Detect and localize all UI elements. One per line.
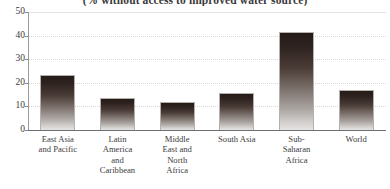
bar	[100, 98, 135, 130]
y-tick-label-40: 40	[1, 31, 25, 41]
x-axis-label: MiddleEast andNorthAfrica	[147, 134, 207, 176]
x-axis-label-line: and Pacific	[28, 144, 88, 154]
x-axis-label-line: Middle	[147, 134, 207, 144]
bar	[160, 102, 195, 130]
x-axis-label-line: East Asia	[28, 134, 88, 144]
x-axis-label-line: Africa	[267, 155, 327, 165]
y-tick-label-0: 0	[1, 125, 25, 135]
x-axis-label-line: World	[326, 134, 386, 144]
y-tick-label-10: 10	[1, 101, 25, 111]
y-tick-label-30: 30	[1, 54, 25, 64]
x-axis-label: South Asia	[207, 134, 267, 144]
x-axis-label: World	[326, 134, 386, 144]
y-tick-label-20: 20	[1, 78, 25, 88]
x-axis-label-line: and	[88, 155, 148, 165]
x-axis-label-line: America	[88, 144, 148, 154]
x-axis-label-line: North	[147, 155, 207, 165]
bar	[339, 90, 374, 130]
x-axis-line	[28, 130, 386, 131]
x-axis-label-line: South Asia	[207, 134, 267, 144]
y-tick-label-50: 50	[1, 7, 25, 17]
bars-layer	[28, 12, 386, 130]
bar-chart: (% without access to improved water sour…	[0, 0, 390, 189]
chart-title: (% without access to improved water sour…	[0, 0, 390, 6]
x-axis-label-line: East and	[147, 144, 207, 154]
bar	[40, 75, 75, 130]
x-axis-label-line: Africa	[147, 165, 207, 175]
x-axis-label-line: Saharan	[267, 144, 327, 154]
x-axis-category-labels: East Asiaand PacificLatinAmericaandCarib…	[28, 134, 386, 189]
bar	[219, 93, 254, 130]
bar	[279, 32, 314, 130]
x-axis-label-line: Caribbean	[88, 165, 148, 175]
x-axis-label-line: Latin	[88, 134, 148, 144]
x-axis-label-line: Sub-	[267, 134, 327, 144]
y-axis-ticks: 50403020100	[0, 12, 25, 131]
x-axis-label: Sub-SaharanAfrica	[267, 134, 327, 165]
x-axis-label: East Asiaand Pacific	[28, 134, 88, 155]
x-axis-label: LatinAmericaandCaribbean	[88, 134, 148, 176]
